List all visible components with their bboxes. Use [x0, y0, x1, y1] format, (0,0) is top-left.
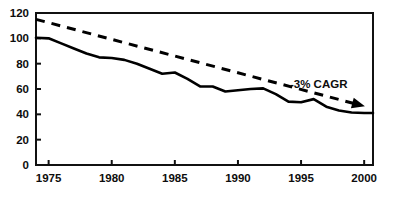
y-tick-label: 60 [16, 83, 29, 95]
y-tick-label: 120 [10, 7, 29, 19]
x-tick-label: 1980 [99, 172, 125, 184]
y-tick-label: 40 [16, 108, 29, 120]
y-tick-label: 80 [16, 58, 29, 70]
x-tick-label: 1975 [36, 172, 62, 184]
cagr-annotation-label: -3% CAGR [290, 78, 348, 90]
chart-container: 020406080100120 197519801985199019952000… [0, 0, 398, 199]
y-tick-label: 0 [23, 159, 29, 171]
x-axis-tick-labels: 197519801985199019952000 [36, 172, 377, 184]
x-tick-label: 1990 [225, 172, 251, 184]
chart-annotations: -3% CAGR [290, 78, 348, 90]
x-tick-label: 1995 [288, 172, 314, 184]
y-tick-label: 100 [10, 32, 29, 44]
line-chart: 020406080100120 197519801985199019952000… [0, 0, 398, 199]
x-tick-label: 2000 [351, 172, 377, 184]
y-axis-tick-labels: 020406080100120 [10, 7, 29, 171]
y-tick-label: 20 [16, 134, 29, 146]
x-tick-label: 1985 [162, 172, 188, 184]
